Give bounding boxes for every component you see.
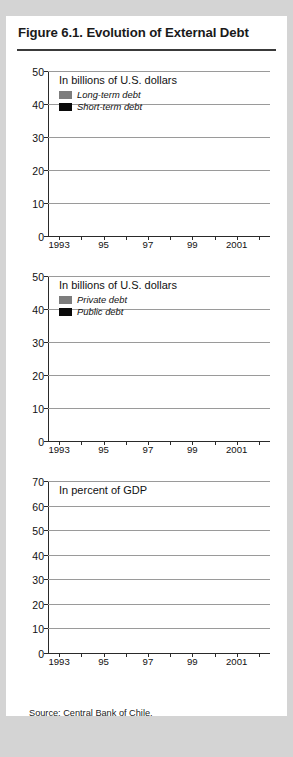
legend-swatch-icon <box>59 91 72 99</box>
y-axis-tick-label: 20 <box>20 165 44 177</box>
legend-label: Private debt <box>77 294 127 305</box>
gridline <box>48 628 270 629</box>
x-axis-tick-mark <box>126 237 127 240</box>
y-axis-tick-label: 50 <box>20 271 44 283</box>
gridline <box>48 71 270 72</box>
gridline <box>48 530 270 531</box>
y-axis-tick-label: 20 <box>20 370 44 382</box>
legend-swatch-icon <box>59 308 72 316</box>
y-axis-tick-label: 50 <box>20 525 44 537</box>
source-note: Source: Central Bank of Chile. <box>29 708 153 718</box>
x-axis-tick-mark <box>170 654 171 657</box>
y-axis-tick-mark <box>44 408 48 409</box>
x-axis-tick-mark <box>81 237 82 240</box>
y-axis-tick-label: 10 <box>20 403 44 415</box>
y-axis-tick-mark <box>44 276 48 277</box>
bar-slot <box>160 277 182 442</box>
y-axis-tick-label: 40 <box>20 550 44 562</box>
y-axis-tick-mark <box>44 481 48 482</box>
title-divider <box>17 49 276 51</box>
x-axis-tick-label: 2001 <box>226 444 247 455</box>
x-axis-tick-label: 97 <box>143 239 154 250</box>
x-axis-tick-label: 1993 <box>48 444 69 455</box>
x-axis-1: 19939597992001 <box>48 237 270 249</box>
y-axis-tick-mark <box>44 530 48 531</box>
x-axis-tick-mark <box>126 442 127 445</box>
panel-caption-2: In billions of U.S. dollars <box>59 279 177 291</box>
y-axis-tick-label: 0 <box>20 231 44 243</box>
panel-caption-1: In billions of U.S. dollars <box>59 74 177 86</box>
x-axis-tick-label: 95 <box>98 444 109 455</box>
y-axis-tick-mark <box>44 506 48 507</box>
figure-page: Figure 6.1. Evolution of External Debt 0… <box>0 0 293 757</box>
bar-slot <box>181 72 203 237</box>
bar-slot <box>225 72 247 237</box>
y-axis-tick-label: 20 <box>20 599 44 611</box>
x-axis-tick-mark <box>126 654 127 657</box>
chart-panel-2: 01020304050 19939597992001 In billions o… <box>17 263 276 468</box>
legend-item-short-term-debt: Short-term debt <box>59 101 142 112</box>
gridline <box>48 137 270 138</box>
legend-label: Public debt <box>77 306 123 317</box>
x-axis-tick-mark <box>81 442 82 445</box>
y-axis-tick-mark <box>44 579 48 580</box>
x-axis-tick-label: 99 <box>187 444 198 455</box>
x-axis-tick-label: 97 <box>143 444 154 455</box>
x-axis-tick-mark <box>259 654 260 657</box>
y-axis-tick-mark <box>44 137 48 138</box>
x-axis-tick-label: 1993 <box>48 656 69 667</box>
y-axis-tick-mark <box>44 375 48 376</box>
gridline <box>48 276 270 277</box>
y-axis-tick-label: 30 <box>20 132 44 144</box>
bar-slot <box>138 277 160 442</box>
plot-area-3: 010203040506070 <box>48 482 270 654</box>
legend-1: Long-term debt Short-term debt <box>59 89 142 113</box>
chart-panel-3: 010203040506070 19939597992001 In percen… <box>17 468 276 680</box>
bar-slot <box>181 277 203 442</box>
gridline <box>48 481 270 482</box>
y-axis-tick-mark <box>44 604 48 605</box>
chart-panels: 01020304050 19939597992001 In billions o… <box>17 58 276 698</box>
y-axis-tick-mark <box>44 71 48 72</box>
x-axis-tick-mark <box>259 237 260 240</box>
y-axis-tick-mark <box>44 104 48 105</box>
legend-item-long-term-debt: Long-term debt <box>59 89 142 100</box>
y-axis-tick-mark <box>44 342 48 343</box>
y-axis-tick-label: 0 <box>20 436 44 448</box>
legend-item-private-debt: Private debt <box>59 294 127 305</box>
legend-label: Long-term debt <box>77 89 141 100</box>
x-axis-tick-label: 97 <box>143 656 154 667</box>
bar-slot <box>246 277 268 442</box>
panel-caption-3: In percent of GDP <box>59 484 147 496</box>
y-axis-tick-label: 70 <box>20 476 44 488</box>
y-axis-tick-label: 10 <box>20 198 44 210</box>
bar-slot <box>225 277 247 442</box>
gridline <box>48 203 270 204</box>
legend-item-public-debt: Public debt <box>59 306 127 317</box>
y-axis-tick-label: 30 <box>20 574 44 586</box>
x-axis-tick-mark <box>170 442 171 445</box>
x-axis-tick-label: 2001 <box>226 239 247 250</box>
x-axis-tick-mark <box>170 237 171 240</box>
x-axis-3: 19939597992001 <box>48 654 270 666</box>
gridline <box>48 555 270 556</box>
y-axis-tick-mark <box>44 203 48 204</box>
y-axis-tick-mark <box>44 555 48 556</box>
y-axis-tick-label: 60 <box>20 501 44 513</box>
page-title: Figure 6.1. Evolution of External Debt <box>18 25 249 40</box>
x-axis-tick-mark <box>81 654 82 657</box>
gridline <box>48 579 270 580</box>
chart-panel-1: 01020304050 19939597992001 In billions o… <box>17 58 276 263</box>
legend-swatch-icon <box>59 103 72 111</box>
y-axis-tick-label: 30 <box>20 337 44 349</box>
x-axis-tick-mark <box>259 442 260 445</box>
x-axis-2: 19939597992001 <box>48 442 270 454</box>
bar-slot <box>246 72 268 237</box>
gridline <box>48 604 270 605</box>
x-axis-tick-mark <box>215 237 216 240</box>
legend-2: Private debt Public debt <box>59 294 127 318</box>
x-axis-tick-label: 95 <box>98 239 109 250</box>
x-axis-tick-label: 99 <box>187 239 198 250</box>
y-axis-tick-label: 0 <box>20 648 44 660</box>
y-axis-tick-label: 40 <box>20 304 44 316</box>
